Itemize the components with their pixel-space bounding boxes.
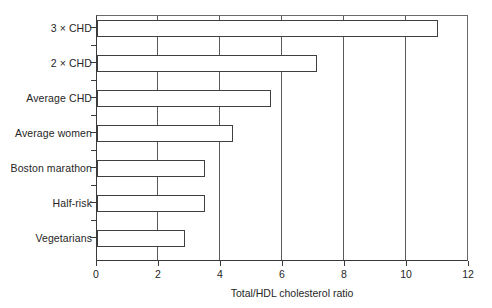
x-axis-tick-8 bbox=[344, 261, 345, 266]
y-axis-label-5: Half-risk bbox=[53, 197, 92, 209]
plot-area bbox=[96, 15, 468, 261]
x-axis-title-text: Total/HDL cholesterol ratio bbox=[231, 287, 354, 299]
gridline-8 bbox=[343, 16, 344, 260]
y-axis-label-3: Average women bbox=[15, 127, 92, 139]
x-axis-tick-12 bbox=[468, 261, 469, 266]
x-axis-tick-4 bbox=[220, 261, 221, 266]
x-axis-tick-0 bbox=[96, 261, 97, 266]
x-axis-label-2: 2 bbox=[155, 268, 161, 280]
bar-vegetarians bbox=[97, 230, 185, 247]
bar-average-chd bbox=[97, 90, 271, 107]
y-axis-label-2: Average CHD bbox=[26, 92, 92, 104]
y-axis-label-6: Vegetarians bbox=[35, 232, 92, 244]
x-axis-tick-2 bbox=[158, 261, 159, 266]
y-axis-label-1: 2 × CHD bbox=[51, 57, 92, 69]
x-axis-label-4: 4 bbox=[217, 268, 223, 280]
bar-3x-chd bbox=[97, 20, 438, 37]
gridline-6 bbox=[281, 16, 282, 260]
bar-chart: 3 × CHD 2 × CHD Average CHD Average wome… bbox=[0, 0, 492, 308]
y-axis-label-0: 3 × CHD bbox=[51, 22, 92, 34]
gridline-10 bbox=[405, 16, 406, 260]
x-axis-tick-10 bbox=[406, 261, 407, 266]
y-axis-label-4: Boston marathon bbox=[11, 162, 92, 174]
bar-half-risk bbox=[97, 195, 205, 212]
x-axis-label-0: 0 bbox=[93, 268, 99, 280]
x-axis-title: Total/HDL cholesterol ratio bbox=[0, 287, 492, 299]
x-axis-label-12: 12 bbox=[462, 268, 474, 280]
x-axis-label-6: 6 bbox=[279, 268, 285, 280]
bar-average-women bbox=[97, 125, 233, 142]
x-axis-tick-6 bbox=[282, 261, 283, 266]
x-axis-label-8: 8 bbox=[341, 268, 347, 280]
bar-boston-marathon bbox=[97, 160, 205, 177]
bar-2x-chd bbox=[97, 55, 317, 72]
x-axis-label-10: 10 bbox=[400, 268, 412, 280]
